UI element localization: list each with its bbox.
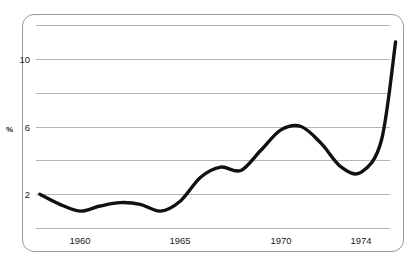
plot-frame — [22, 14, 404, 252]
y-axis-unit-label: % — [6, 126, 13, 134]
line-chart: % 10 6 2 1960 1965 1970 1974 — [0, 0, 419, 264]
